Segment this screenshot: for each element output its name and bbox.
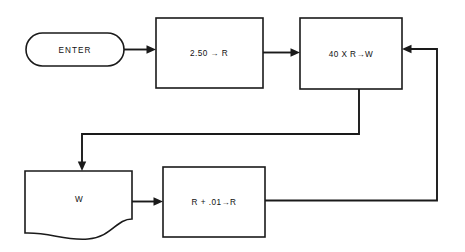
node-compute-w[interactable] [300, 18, 402, 89]
connector-print-w-to-increment-r [132, 197, 163, 205]
flowchart-graphics [0, 0, 465, 252]
node-enter[interactable] [26, 33, 124, 66]
node-set-r[interactable] [156, 18, 263, 88]
connector-enter-to-set-r [124, 45, 156, 53]
connector-compute-w-to-print-w [78, 89, 359, 171]
node-increment-r[interactable] [163, 167, 265, 237]
node-print-w[interactable] [25, 171, 132, 239]
connector-set-r-to-compute-w [263, 48, 300, 56]
flowchart-canvas: ENTER 2.50 → R 40 X R→W W R + .01→R [0, 0, 465, 252]
